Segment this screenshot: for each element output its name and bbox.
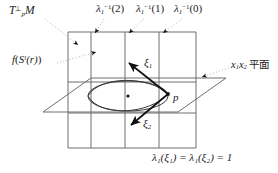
xi1-label: ξ1 bbox=[144, 57, 152, 69]
leader-lines bbox=[45, 19, 232, 77]
lambda-argument: (2) bbox=[111, 2, 124, 14]
xi2-label: ξ2 bbox=[143, 118, 151, 130]
image-sphere-label: f(Sl(r)) bbox=[12, 54, 41, 65]
plane-japanese-word: 平面 bbox=[249, 58, 269, 70]
x1x2-plane bbox=[43, 78, 226, 112]
x1x2-plane-label: x1x2 平面 bbox=[231, 59, 269, 71]
xi-index: 2 bbox=[148, 123, 151, 130]
level-set-label-0: λ1−1(0) bbox=[174, 3, 202, 15]
level-set-label-2: λ1−1(2) bbox=[96, 3, 124, 15]
eigenvalue-equation: λ₁(ξ₁) = λ₁(ξ₂) = 1 bbox=[152, 152, 232, 163]
normal-space-figure: T⊥pM f(Sl(r)) λ1−1(2) λ1−1(1) λ1−1(0) x1… bbox=[0, 0, 278, 173]
point-p-dot bbox=[166, 92, 170, 96]
normal-plane-grid bbox=[68, 32, 196, 148]
lens-center-dot bbox=[126, 94, 129, 97]
leader-lambda-2 bbox=[95, 19, 104, 33]
xi-index: 1 bbox=[149, 62, 152, 69]
leader-lambda-0 bbox=[163, 19, 182, 33]
xi-vectors bbox=[129, 63, 170, 125]
level-set-label-1: λ1−1(1) bbox=[136, 3, 164, 15]
leader-lambda-1 bbox=[129, 19, 144, 33]
lambda-argument: (0) bbox=[189, 2, 202, 14]
normal-space-M: M bbox=[25, 4, 35, 16]
image-sphere-close: ) bbox=[38, 53, 42, 65]
plane-index-2: 2 bbox=[244, 63, 247, 70]
lens-upper-arc bbox=[88, 80, 168, 96]
point-p-label: p bbox=[173, 92, 179, 103]
leader-x1x2-plane bbox=[202, 67, 232, 77]
image-sphere-arg: (r) bbox=[26, 53, 38, 65]
figure-canvas bbox=[0, 0, 278, 173]
plane-outline bbox=[43, 78, 226, 112]
lambda-argument: (1) bbox=[151, 2, 164, 14]
leader-image-sphere bbox=[57, 52, 96, 63]
normal-space-label: T⊥pM bbox=[9, 5, 35, 18]
